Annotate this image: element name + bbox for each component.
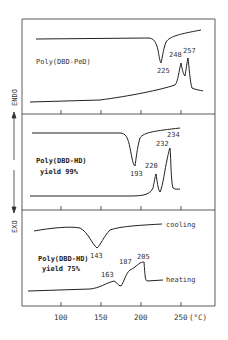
p3-heating-label: heating — [166, 276, 196, 284]
p3-cooling-curve — [34, 224, 162, 248]
p3-peak-187: 187 — [119, 258, 132, 266]
p1-peak-257: 257 — [183, 47, 196, 55]
p3-peak-143: 143 — [90, 252, 103, 260]
endo-label: ENDO — [11, 89, 19, 106]
p3-cooling-label: cooling — [166, 221, 196, 229]
p3-peak-205: 205 — [137, 253, 150, 261]
p3-name: Poly(DBD-HD) — [38, 255, 89, 263]
exo-label: EXO — [11, 220, 19, 233]
arrow-down-icon — [12, 207, 16, 213]
p2-yield: yield 99% — [40, 168, 79, 176]
p1-peak-248: 248 — [169, 51, 182, 59]
p3-peak-163: 163 — [101, 271, 114, 279]
p3-yield: yield 75% — [42, 265, 81, 273]
p2-name: Poly(DBD-HD) — [36, 157, 87, 165]
p2-peak-234: 234 — [167, 131, 180, 139]
panel-1 — [30, 30, 203, 102]
p1-name: Poly(DBD-PeD) — [36, 58, 91, 66]
x-tick-150: 150 — [94, 313, 108, 322]
x-unit: (°C) — [189, 313, 207, 322]
x-tick-100: 100 — [54, 313, 68, 322]
x-tick-250: 250 — [174, 313, 188, 322]
p1-peak-225: 225 — [157, 67, 170, 75]
endo-exo-axis — [12, 112, 16, 213]
x-tick-200: 200 — [134, 313, 148, 322]
dsc-chart: Poly(DBD-PeD) 225 248 257 Poly(DBD-HD) y… — [0, 0, 228, 340]
p2-peak-193: 193 — [130, 170, 143, 178]
p2-peak-220: 220 — [145, 162, 158, 170]
p2-peak-232: 232 — [156, 140, 169, 148]
arrow-up-icon — [12, 112, 16, 118]
